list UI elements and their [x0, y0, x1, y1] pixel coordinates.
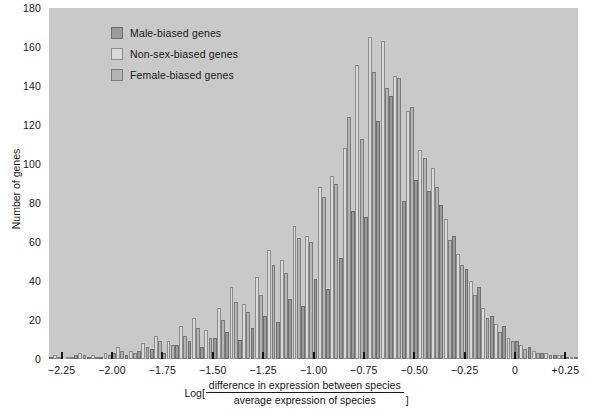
x-tickmark-7 [413, 352, 415, 359]
x-tickmark-6 [363, 352, 365, 359]
y-axis-labels: 020406080100120140160180 [0, 0, 45, 411]
log-prefix: Log[ [184, 387, 204, 399]
x-tickmark-8 [464, 352, 466, 359]
y-tick-20: 20 [29, 314, 41, 326]
x-tick-6: −0.75 [350, 364, 378, 376]
legend-swatch-icon-0 [111, 27, 123, 39]
legend-label-2: Female-biased genes [130, 69, 234, 81]
x-tickmark-10 [564, 352, 566, 359]
y-axis-title: Number of genes [10, 129, 22, 249]
x-tick-2: −1.75 [149, 364, 177, 376]
x-tickmark-4 [262, 352, 264, 359]
x-tick-9: 0 [512, 364, 518, 376]
y-tick-40: 40 [29, 275, 41, 287]
x-tick-4: −1.25 [249, 364, 277, 376]
x-tickmark-3 [212, 352, 214, 359]
fraction: difference in expression between species… [206, 379, 404, 407]
legend-item-2: Female-biased genes [111, 64, 238, 85]
y-tick-160: 160 [23, 41, 41, 53]
x-tick-1: −2.00 [98, 364, 126, 376]
legend-label-1: Non-sex-biased genes [130, 48, 238, 60]
y-tick-180: 180 [23, 2, 41, 14]
x-tick-7: −0.50 [400, 364, 428, 376]
fraction-numerator: difference in expression between species [206, 379, 404, 393]
y-tick-80: 80 [29, 197, 41, 209]
y-tick-140: 140 [23, 80, 41, 92]
plot-area: Male-biased genesNon-sex-biased genesFem… [49, 8, 578, 359]
x-axis-title: Log[ difference in expression between sp… [0, 379, 593, 407]
legend-swatch-icon-1 [111, 48, 123, 60]
x-tickmark-1 [111, 352, 113, 359]
x-tick-5: −1.00 [300, 364, 328, 376]
legend-swatch-icon-2 [111, 69, 123, 81]
legend-label-0: Male-biased genes [130, 27, 221, 39]
x-tick-10: +0.25 [552, 364, 580, 376]
legend-item-1: Non-sex-biased genes [111, 43, 238, 64]
x-tickmark-2 [161, 352, 163, 359]
y-tick-60: 60 [29, 236, 41, 248]
y-tick-100: 100 [23, 158, 41, 170]
bar-2-41 [574, 357, 578, 359]
fraction-denominator: average expression of species [231, 393, 379, 406]
legend-item-0: Male-biased genes [111, 22, 238, 43]
x-tick-3: −1.50 [199, 364, 227, 376]
x-tickmark-9 [514, 352, 516, 359]
x-tickmark-0 [61, 352, 63, 359]
x-tickmark-5 [313, 352, 315, 359]
x-axis-labels: −2.25−2.00−1.75−1.50−1.25−1.00−0.75−0.50… [0, 362, 593, 378]
x-tick-0: −2.25 [48, 364, 76, 376]
legend: Male-biased genesNon-sex-biased genesFem… [111, 22, 238, 85]
chart-figure: 020406080100120140160180 Number of genes… [0, 0, 593, 411]
bracket-close: ] [406, 394, 409, 407]
x-tick-8: −0.25 [451, 364, 479, 376]
y-tick-120: 120 [23, 119, 41, 131]
